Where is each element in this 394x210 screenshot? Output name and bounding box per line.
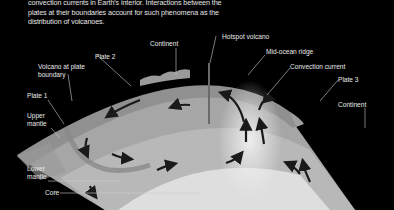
label-plate-1: Plate 1	[27, 92, 48, 100]
label-continent-left: Continent	[150, 40, 178, 48]
label-convection-current: Convection current	[290, 63, 345, 71]
label-upper-mantle-line2: mantle	[27, 120, 47, 128]
earth-cross-section	[0, 0, 394, 210]
plate-tectonics-diagram: convection currents in Earth's interior.…	[0, 0, 394, 210]
label-upper-mantle-line1: Upper	[27, 112, 47, 120]
label-plate-2: Plate 2	[95, 53, 116, 61]
label-lower-mantle-line1: Lower	[27, 165, 47, 173]
label-continent-right: Continent	[338, 101, 366, 109]
label-lower-mantle: Lower mantle	[27, 165, 47, 181]
label-volcano-line1: Volcano at plate	[38, 63, 85, 71]
label-lower-mantle-line2: mantle	[27, 173, 47, 181]
label-volcano-at-plate-boundary: Volcano at plate boundary	[38, 63, 85, 79]
label-mid-ocean-ridge: Mid-ocean ridge	[266, 48, 313, 56]
label-upper-mantle: Upper mantle	[27, 112, 47, 128]
mantle-plume	[218, 80, 282, 200]
label-hotspot-volcano: Hotspot volcano	[222, 33, 269, 41]
label-volcano-line2: boundary	[38, 71, 85, 79]
label-plate-3: Plate 3	[338, 76, 359, 84]
diagram-caption: convection currents in Earth's interior.…	[28, 0, 228, 27]
continent-left	[140, 69, 190, 86]
label-core: Core	[45, 189, 59, 197]
